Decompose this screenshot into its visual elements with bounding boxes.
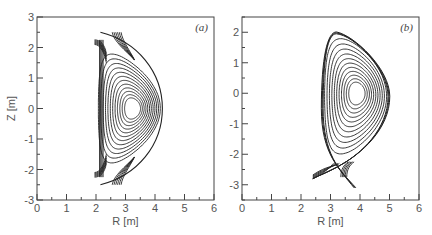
y-tick-label: -2 (24, 164, 34, 176)
x-tick-label: 0 (239, 202, 245, 214)
y-tick-label: 2 (233, 26, 239, 38)
y-tick-label: -1 (229, 118, 239, 130)
x-tick-label: 1 (63, 202, 69, 214)
plot-frame (242, 17, 419, 200)
flux-contours (313, 32, 390, 188)
divertor-leg (313, 163, 337, 176)
x-tick-label: 4 (357, 202, 363, 214)
x-tick-label: 4 (152, 202, 158, 214)
x-tick-label: 2 (93, 202, 99, 214)
y-axis-label: Z [m] (5, 96, 17, 121)
x-axis-label: R [m] (317, 215, 343, 227)
figure: 01234563210-1-2-3R [m]Z [m](a) 012345621… (0, 0, 432, 235)
x-tick-label: 2 (298, 202, 304, 214)
flux-surface (117, 88, 146, 129)
x-tick-label: 1 (268, 202, 274, 214)
y-tick-label: 1 (28, 72, 34, 84)
x-tick-label: 3 (122, 202, 128, 214)
panel-b: 0123456210-1-2-3R [m](b) (229, 17, 422, 227)
y-tick-label: -3 (24, 194, 34, 206)
flux-surface (125, 98, 141, 119)
x-tick-label: 6 (211, 202, 217, 214)
flux-contours (95, 32, 163, 185)
flux-surface (103, 64, 157, 154)
panel-label: (a) (195, 21, 208, 34)
y-tick-label: -2 (229, 148, 239, 160)
panel-label: (b) (400, 21, 413, 34)
y-tick-label: 0 (233, 87, 239, 99)
x-tick-label: 6 (416, 202, 422, 214)
panel-a: 01234563210-1-2-3R [m]Z [m](a) (5, 11, 217, 227)
y-tick-label: 2 (28, 42, 34, 54)
x-tick-label: 5 (181, 202, 187, 214)
y-tick-label: 3 (28, 11, 34, 23)
x-tick-label: 5 (386, 202, 392, 214)
x-tick-label: 3 (327, 202, 333, 214)
flux-surface (349, 82, 365, 105)
x-axis-label: R [m] (112, 215, 138, 227)
y-tick-label: -1 (24, 133, 34, 145)
flux-surface (344, 75, 370, 113)
y-tick-label: 0 (28, 103, 34, 115)
y-tick-label: -3 (229, 179, 239, 191)
y-tick-label: 1 (233, 57, 239, 69)
x-tick-label: 0 (34, 202, 40, 214)
flux-surface (346, 79, 367, 109)
flux-surface (122, 95, 142, 123)
